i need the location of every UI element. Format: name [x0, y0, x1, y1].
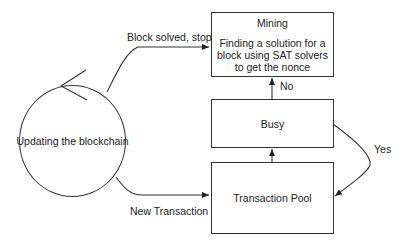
edge-label-yes: Yes: [374, 143, 391, 155]
node-pool-label: Transaction Pool: [233, 192, 311, 204]
node-mining: Mining Finding a solution for a block us…: [211, 12, 334, 77]
node-updating-blockchain: Updating the blockchain: [19, 85, 126, 197]
edge-busy-to-pool-yes: [333, 124, 370, 196]
node-busy-label: Busy: [261, 118, 284, 130]
node-updating-label: Updating the blockchain: [16, 135, 128, 147]
edge-label-no: No: [280, 80, 293, 92]
edge-new-transaction: [116, 177, 209, 195]
node-busy: Busy: [211, 99, 334, 148]
node-mining-description: Finding a solution for a block using SAT…: [212, 37, 333, 73]
node-transaction-pool: Transaction Pool: [211, 162, 334, 234]
edge-label-new-transaction: New Transaction: [130, 205, 208, 217]
edge-label-block-solved: Block solved, stop: [127, 31, 212, 43]
node-mining-title: Mining: [257, 17, 288, 29]
edge-block-solved: [107, 47, 209, 92]
